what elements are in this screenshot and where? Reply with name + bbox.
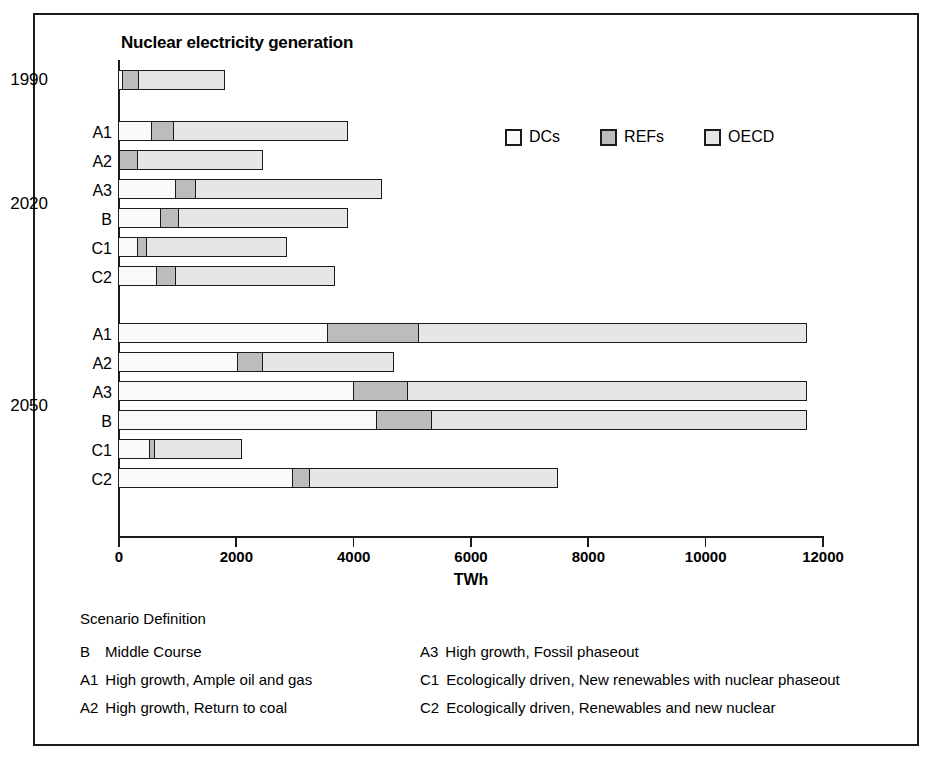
row-label-B: B [56,211,112,229]
scenario-key: A3 [420,643,438,660]
bar-segment-oecd [262,352,394,372]
bar-segment-dcs [118,208,162,228]
row-label-A3: A3 [56,182,112,200]
bar-segment-refs [151,121,174,141]
group-label-2050: 2050 [0,396,48,416]
scenario-text: High growth, Fossil phaseout [445,643,638,660]
scenario-entry: BMiddle Course [80,643,420,660]
x-tick [118,538,120,547]
bar-segment-refs [353,381,409,401]
bar-segment-refs [119,150,138,170]
bar-segment-oecd [418,323,807,343]
legend-swatch-refs [600,129,617,146]
x-tick [353,538,355,547]
bar-segment-oecd [431,410,806,430]
bar-segment-dcs [118,323,329,343]
scenario-key: C1 [420,671,439,688]
x-axis-title: TWh [454,571,489,589]
bar-segment-oecd [173,121,348,141]
scenario-heading: Scenario Definition [80,610,915,627]
bar-A3 [118,381,805,401]
bar-C1 [118,237,286,257]
bar-segment-dcs [118,121,153,141]
row-label-C2: C2 [56,269,112,287]
legend-item-oecd: OECD [704,128,774,146]
bar-segment-oecd [407,381,807,401]
scenario-grid: BMiddle CourseA3High growth, Fossil phas… [80,643,915,716]
x-tick [705,538,707,547]
bar-A2 [118,150,262,170]
bar-B [118,208,347,228]
x-tick-label: 10000 [685,548,727,565]
scenario-entry: A1High growth, Ample oil and gas [80,671,420,688]
scenario-key: A2 [80,699,98,716]
scenario-key: A1 [80,671,98,688]
legend-item-refs: REFs [600,128,664,146]
x-tick-label: 6000 [454,548,487,565]
x-tick-label: 0 [115,548,123,565]
legend-label: DCs [529,128,560,146]
bar-segment-dcs [118,439,151,459]
row-label-C1: C1 [56,442,112,460]
bar-segment-dcs [118,237,139,257]
x-tick-label: 12000 [802,548,844,565]
bar-A1 [118,323,805,343]
x-tick [470,538,472,547]
bar-segment-oecd [309,468,558,488]
row-label-A2: A2 [56,355,112,373]
row-label-A3: A3 [56,384,112,402]
bar-segment-oecd [138,70,225,90]
scenario-key: C2 [420,699,439,716]
bar-segment-refs [237,352,264,372]
row-label-A1: A1 [56,124,112,142]
legend-label: OECD [728,128,774,146]
row-label-A1: A1 [56,326,112,344]
legend-swatch-oecd [704,129,721,146]
bar-A3 [118,179,381,199]
legend-swatch-dcs [505,129,522,146]
legend-label: REFs [624,128,664,146]
bar-A2 [118,352,392,372]
bar-B [118,410,805,430]
x-tick-label: 2000 [220,548,253,565]
scenario-text: High growth, Ample oil and gas [105,671,312,688]
bar-segment-refs [327,323,419,343]
bar-1990 [118,70,223,90]
bar-C1 [118,439,240,459]
scenario-entry: A2High growth, Return to coal [80,699,420,716]
scenario-text: High growth, Return to coal [105,699,287,716]
bar-segment-oecd [146,237,287,257]
bar-segment-dcs [118,410,377,430]
scenario-key: B [80,643,98,660]
bar-segment-oecd [175,266,335,286]
bar-segment-dcs [118,381,354,401]
x-tick [587,538,589,547]
bar-segment-dcs [118,179,177,199]
scenario-text: Ecologically driven, New renewables with… [446,671,840,688]
legend-item-dcs: DCs [505,128,560,146]
bar-segment-dcs [118,352,239,372]
row-label-C2: C2 [56,471,112,489]
scenario-text: Ecologically driven, Renewables and new … [446,699,775,716]
bar-segment-dcs [118,266,157,286]
scenario-text: Middle Course [105,643,202,660]
x-tick [822,538,824,547]
bar-segment-dcs [118,468,293,488]
bar-segment-oecd [137,150,264,170]
scenario-entry: C1Ecologically driven, New renewables wi… [420,671,915,688]
x-tick [235,538,237,547]
bar-segment-refs [376,410,433,430]
scenario-entry: C2Ecologically driven, Renewables and ne… [420,699,915,716]
bar-segment-refs [160,208,179,228]
row-label-A2: A2 [56,153,112,171]
bar-segment-refs [156,266,177,286]
x-tick-label: 8000 [572,548,605,565]
x-tick-label: 4000 [337,548,370,565]
row-label-B: B [56,413,112,431]
bar-C2 [118,266,333,286]
scenario-entry: A3High growth, Fossil phaseout [420,643,915,660]
bar-segment-refs [292,468,311,488]
bar-segment-refs [175,179,197,199]
row-label-C1: C1 [56,240,112,258]
figure-frame: Nuclear electricity generation 020004000… [33,13,919,746]
